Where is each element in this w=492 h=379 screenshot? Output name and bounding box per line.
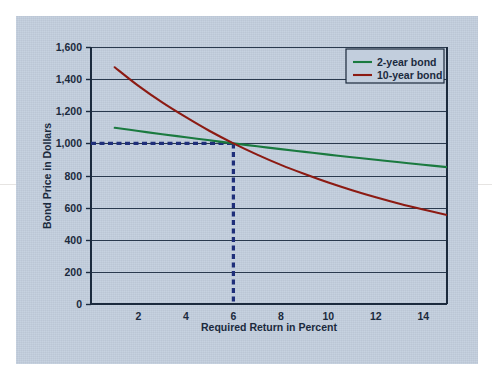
y-axis-title: Bond Price in Dollars: [41, 123, 53, 229]
x-axis-tick-label: 4: [183, 310, 189, 322]
y-axis-tick-labels: 02004006008001,0001,2001,4001,600: [56, 41, 82, 310]
y-axis-tick-label: 1,000: [56, 137, 82, 149]
x-axis-title: Required Return in Percent: [201, 321, 337, 333]
chart-legend: 2-year bond10-year bond: [346, 49, 444, 83]
chart-page: 02004006008001,0001,2001,4001,600 246810…: [0, 0, 492, 379]
y-axis-tick-label: 1,600: [56, 41, 82, 53]
series-line: [115, 128, 447, 167]
y-axis-tick-label: 1,200: [56, 105, 82, 117]
y-axis-tick-label: 1,400: [56, 73, 82, 85]
x-axis-tick-label: 14: [417, 310, 429, 322]
bond-price-line-chart: 02004006008001,0001,2001,4001,600 246810…: [0, 0, 492, 379]
par-value-reference-guide: [91, 143, 233, 304]
y-axis-tick-label: 200: [64, 266, 82, 278]
x-axis-tick-label: 2: [136, 310, 142, 322]
y-axis-tick-label: 400: [64, 234, 82, 246]
x-axis-tick-label: 12: [370, 310, 382, 322]
data-series-group: [115, 67, 447, 215]
y-axis-tick-label: 800: [64, 170, 82, 182]
legend-label: 10-year bond: [377, 69, 442, 81]
y-axis-tick-label: 600: [64, 202, 82, 214]
series-line: [115, 67, 447, 215]
legend-label: 2-year bond: [377, 56, 437, 68]
y-axis-tick-label: 0: [76, 298, 82, 310]
